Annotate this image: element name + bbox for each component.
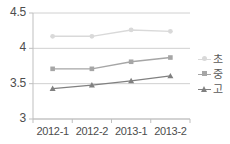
series-line (53, 76, 171, 89)
y-tick-label: 4 (0, 40, 26, 54)
legend-item-중[interactable]: 중 (198, 67, 230, 82)
legend-swatch (198, 54, 211, 65)
legend-item-고[interactable]: 고 (198, 82, 230, 97)
data-series-layer (50, 28, 174, 91)
legend-label: 고 (211, 84, 223, 95)
y-tick-label: 3.5 (0, 76, 26, 90)
legend-label: 중 (211, 69, 223, 80)
line-chart: 4.543.53 2012-12012-22013-12013-2 초중고 (0, 0, 230, 144)
legend-square-icon (202, 71, 207, 76)
plot-area (0, 0, 230, 144)
data-point-marker (89, 34, 94, 39)
data-point-marker (90, 67, 95, 72)
legend-circle-icon (202, 56, 207, 61)
data-point-marker (50, 67, 55, 72)
series-0 (50, 28, 173, 39)
legend-triangle-icon (201, 86, 207, 92)
data-point-marker (50, 34, 55, 39)
legend-label: 초 (211, 54, 223, 65)
legend-swatch (198, 69, 211, 80)
data-point-marker (129, 59, 134, 64)
y-tick-label: 3 (0, 111, 26, 125)
series-line (53, 30, 171, 36)
data-point-marker (168, 55, 173, 60)
y-tick-label: 4.5 (0, 5, 26, 19)
legend-item-초[interactable]: 초 (198, 52, 230, 67)
legend-swatch (198, 84, 211, 95)
series-line (53, 58, 171, 69)
data-point-marker (129, 28, 134, 33)
x-tick-label: 2013-2 (145, 125, 195, 137)
series-1 (50, 55, 172, 71)
data-point-marker (168, 29, 173, 34)
series-2 (50, 73, 174, 91)
chart-legend: 초중고 (198, 52, 230, 97)
